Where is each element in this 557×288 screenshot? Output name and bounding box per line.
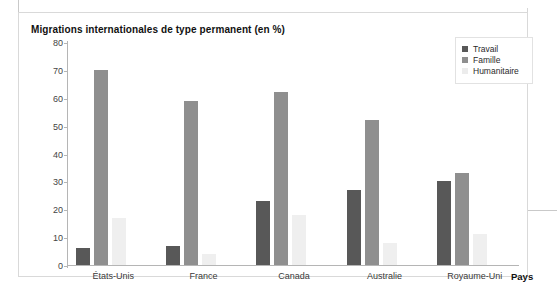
bar-group	[158, 43, 248, 265]
y-axis-tick-40: 40	[37, 150, 63, 160]
x-axis-line	[67, 265, 519, 266]
y-axis-tick-60: 60	[37, 94, 63, 104]
bar-humanitaire[interactable]	[473, 234, 487, 265]
y-axis-tick-80: 80	[37, 38, 63, 48]
bar-humanitaire[interactable]	[292, 215, 306, 265]
x-axis-labels: États-UnisFranceCanadaAustralieRoyaume-U…	[68, 271, 520, 281]
bar-groups	[68, 43, 519, 265]
y-axis-tick-30: 30	[37, 177, 63, 187]
bar-travail[interactable]	[347, 190, 361, 265]
bar-famille[interactable]	[365, 120, 379, 265]
bar-travail[interactable]	[256, 201, 270, 265]
bar-travail[interactable]	[437, 181, 451, 265]
x-axis-title: Pays	[511, 271, 533, 282]
y-axis-tick-70: 70	[37, 66, 63, 76]
bar-humanitaire[interactable]	[112, 218, 126, 265]
y-axis-tick-20: 20	[37, 205, 63, 215]
bar-group	[68, 43, 158, 265]
bar-humanitaire[interactable]	[383, 243, 397, 265]
bar-travail[interactable]	[166, 246, 180, 266]
y-axis-tick-0: 0	[37, 261, 63, 271]
x-axis-label: Royaume-Uni	[430, 271, 520, 281]
chart-frame: Migrations internationales de type perma…	[18, 12, 528, 277]
y-axis-tick-50: 50	[37, 122, 63, 132]
bar-famille[interactable]	[184, 101, 198, 265]
chart-page: Migrations internationales de type perma…	[0, 0, 557, 288]
x-axis-label: Australie	[339, 271, 429, 281]
bar-famille[interactable]	[274, 92, 288, 265]
page-rule-tick-right	[527, 210, 557, 211]
x-axis-label: États-Unis	[68, 271, 158, 281]
chart-title: Migrations internationales de type perma…	[31, 24, 285, 35]
bar-famille[interactable]	[94, 70, 108, 265]
bar-travail[interactable]	[76, 248, 90, 265]
plot-area: 80706050403020100	[67, 43, 519, 266]
bar-humanitaire[interactable]	[202, 254, 216, 265]
bar-group	[339, 43, 429, 265]
bar-group	[248, 43, 338, 265]
bar-famille[interactable]	[455, 173, 469, 265]
x-axis-label: France	[158, 271, 248, 281]
x-axis-label: Canada	[249, 271, 339, 281]
bar-group	[429, 43, 519, 265]
y-axis-tick-10: 10	[37, 233, 63, 243]
y-axis-tick-mark	[64, 266, 68, 267]
